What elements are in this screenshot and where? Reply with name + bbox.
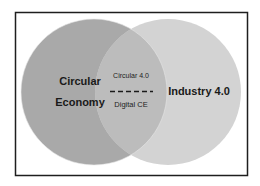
intersection-top-label: Circular 4.0 [113,72,149,79]
left-set-label-line2: Economy [55,96,105,108]
venn-diagram: Circular Economy Industry 4.0 Circular 4… [0,0,260,186]
left-set-label-line1: Circular [59,75,101,87]
intersection-bottom-label: Digital CE [114,100,147,109]
right-set-label: Industry 4.0 [168,85,230,97]
